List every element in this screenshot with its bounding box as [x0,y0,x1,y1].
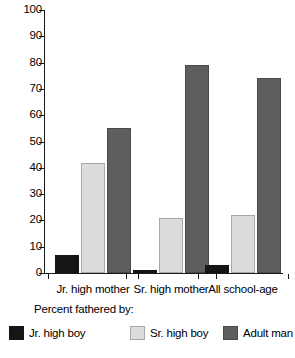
legend-item-jr-high-boy[interactable]: Jr. high boy [9,325,85,341]
bar-jr-high-mother-adult-man [107,128,131,273]
legend-swatch-icon [223,326,238,340]
bar-jr-high-mother-jr-high-boy [55,255,79,273]
bar-sr-high-mother-sr-high-boy [159,218,183,273]
legend: Percent fathered by: Jr. high boySr. hig… [0,303,295,358]
bar-chart: 0102030405060708090100 Jr. high motherSr… [0,0,295,358]
bar-sr-high-mother-adult-man [185,65,209,273]
legend-swatch-icon [130,326,145,340]
legend-item-adult-man[interactable]: Adult man [223,325,293,341]
legend-item-sr-high-boy[interactable]: Sr. high boy [130,325,208,341]
legend-item-label: Sr. high boy [150,327,208,340]
bar-all-school-age-jr-high-boy [205,265,229,273]
bar-all-school-age-sr-high-boy [231,215,255,273]
plot-area: 0102030405060708090100 Jr. high motherSr… [0,0,295,280]
legend-title: Percent fathered by: [34,303,134,316]
x-axis-category-label: All school-age [188,283,295,296]
bars-layer [0,0,295,280]
bar-sr-high-mother-jr-high-boy [133,270,157,273]
legend-items: Jr. high boySr. high boyAdult man [0,325,295,345]
bar-all-school-age-adult-man [257,78,281,273]
bar-jr-high-mother-sr-high-boy [81,163,105,273]
legend-item-label: Adult man [243,327,293,340]
legend-swatch-icon [9,326,24,340]
legend-item-label: Jr. high boy [29,327,85,340]
